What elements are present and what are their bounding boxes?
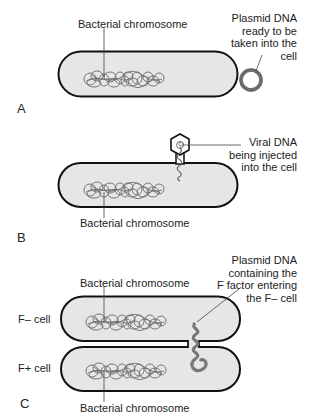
panel-b-annotation-line: being injected [229, 149, 297, 162]
panel-c-annotation-line: the F– cell [217, 292, 297, 305]
panel-c-bottom-chromosome-label: Bacterial chromosome [80, 402, 189, 415]
panel-b-annotation-line: into the cell [229, 161, 297, 174]
panel-c-annotation-line: F factor entering [217, 279, 297, 292]
panel-b-annotation-line: Viral DNA [229, 136, 297, 149]
panel-a-chromosome-label: Bacterial chromosome [78, 18, 187, 31]
panel-c-f-minus-cell [61, 286, 240, 341]
panel-c-f-plus-cell [61, 347, 240, 402]
panel-b-cell [59, 163, 238, 218]
panel-b-letter: B [17, 230, 26, 245]
panel-a-letter: A [17, 101, 26, 116]
panel-b-annotation: Viral DNA being injected into the cell [229, 136, 297, 174]
f-plus-cell-label: F+ cell [18, 362, 51, 375]
panel-c-annotation-line: Plasmid DNA [217, 254, 297, 267]
f-minus-cell-label: F– cell [18, 313, 50, 326]
panel-a-annotation-line: Plasmid DNA [231, 12, 297, 25]
panel-b-chromosome-label: Bacterial chromosome [80, 217, 189, 230]
panel-c-annotation: Plasmid DNA containing the F factor ente… [217, 254, 297, 304]
panel-c-top-chromosome-label: Bacterial chromosome [80, 277, 189, 290]
panel-a-annotation: Plasmid DNA ready to be taken into the c… [231, 12, 297, 62]
panel-c-letter: C [20, 396, 29, 411]
panel-a-annotation-line: taken into the [231, 37, 297, 50]
panel-a-cell [59, 28, 238, 97]
panel-c-annotation-line: containing the [217, 267, 297, 280]
panel-a-annotation-line: cell [231, 50, 297, 63]
panel-a-annotation-line: ready to be [231, 25, 297, 38]
diagram-canvas [0, 0, 317, 418]
